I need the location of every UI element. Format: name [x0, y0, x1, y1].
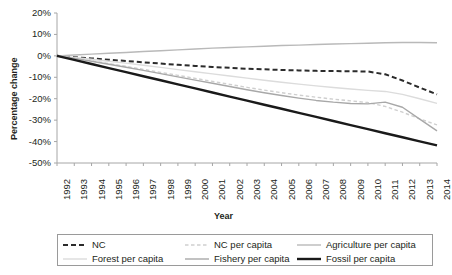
- x-axis-tick-label: 2003: [251, 179, 262, 200]
- x-axis-tick-label: 1999: [182, 179, 193, 200]
- x-axis-tick-label: 2002: [234, 179, 245, 200]
- x-axis-tick-label: 2011: [389, 180, 400, 200]
- x-axis-tick-label: 2008: [337, 179, 348, 200]
- legend-item-label: Forest per capita: [92, 253, 163, 264]
- legend-item[interactable]: Agriculture per capita: [296, 238, 416, 251]
- x-axis-tick-label: 1994: [96, 179, 107, 200]
- legend-item[interactable]: NC per capita: [184, 238, 272, 251]
- x-axis-tick-label: 2004: [268, 179, 279, 200]
- x-axis-tick-label: 1997: [147, 179, 158, 200]
- x-axis-tick-label: 1998: [165, 179, 176, 200]
- series-line: [57, 56, 437, 131]
- legend-item[interactable]: Forest per capita: [62, 252, 163, 265]
- x-axis-tick-label: 2001: [216, 179, 227, 200]
- legend-item[interactable]: NC: [62, 238, 106, 251]
- legend-item-label: NC: [92, 239, 106, 250]
- series-line: [57, 43, 437, 56]
- x-axis-tick-label: 1995: [113, 179, 124, 200]
- x-axis-tick-label: 2005: [286, 179, 297, 200]
- legend-item-label: Agriculture per capita: [326, 239, 416, 250]
- legend-line-icon: [62, 239, 88, 250]
- x-axis-tick-label: 2006: [303, 179, 314, 200]
- legend-item-label: Fossil per capita: [326, 253, 395, 264]
- x-axis-tick-label: 2012: [406, 179, 417, 200]
- x-axis-tick-label: 2013: [424, 179, 435, 200]
- legend-item[interactable]: Fishery per capita: [184, 252, 290, 265]
- legend-line-icon: [184, 239, 210, 250]
- series-line: [57, 56, 437, 146]
- series-line: [57, 56, 437, 104]
- legend-line-icon: [184, 253, 210, 264]
- x-axis-tick-label: 2007: [320, 179, 331, 200]
- legend-item[interactable]: Fossil per capita: [296, 252, 395, 265]
- x-axis-tick-label: 2014: [441, 179, 452, 200]
- legend-line-icon: [296, 239, 322, 250]
- chart-legend: NCNC per capitaAgriculture per capitaFor…: [57, 234, 433, 266]
- x-axis-title: Year: [0, 211, 447, 221]
- x-axis-tick-label: 2009: [355, 179, 366, 200]
- x-axis-tick-label: 1993: [78, 179, 89, 200]
- legend-item-label: NC per capita: [214, 239, 272, 250]
- x-axis-tick-label: 2010: [372, 179, 383, 200]
- x-axis-tick-label: 2000: [199, 179, 210, 200]
- legend-line-icon: [62, 253, 88, 264]
- legend-item-label: Fishery per capita: [214, 253, 290, 264]
- x-axis-tick-label: 1992: [61, 179, 72, 200]
- x-axis-tick-label: 1996: [130, 179, 141, 200]
- legend-line-icon: [296, 253, 322, 264]
